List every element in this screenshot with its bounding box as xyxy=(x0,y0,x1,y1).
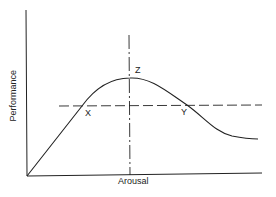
point-y-label: Y xyxy=(181,108,187,117)
performance-curve xyxy=(27,78,258,176)
y-axis-label: Performance xyxy=(9,72,18,122)
y-axis xyxy=(26,10,27,176)
point-z-label: Z xyxy=(135,66,141,75)
x-axis-label: Arousal xyxy=(118,177,149,186)
vertical-reference-line xyxy=(129,35,130,175)
horizontal-reference-line xyxy=(59,105,262,106)
chart-canvas xyxy=(0,0,276,197)
point-x-label: X xyxy=(85,109,91,118)
inverted-u-chart: Arousal Performance X Y Z xyxy=(0,0,276,197)
